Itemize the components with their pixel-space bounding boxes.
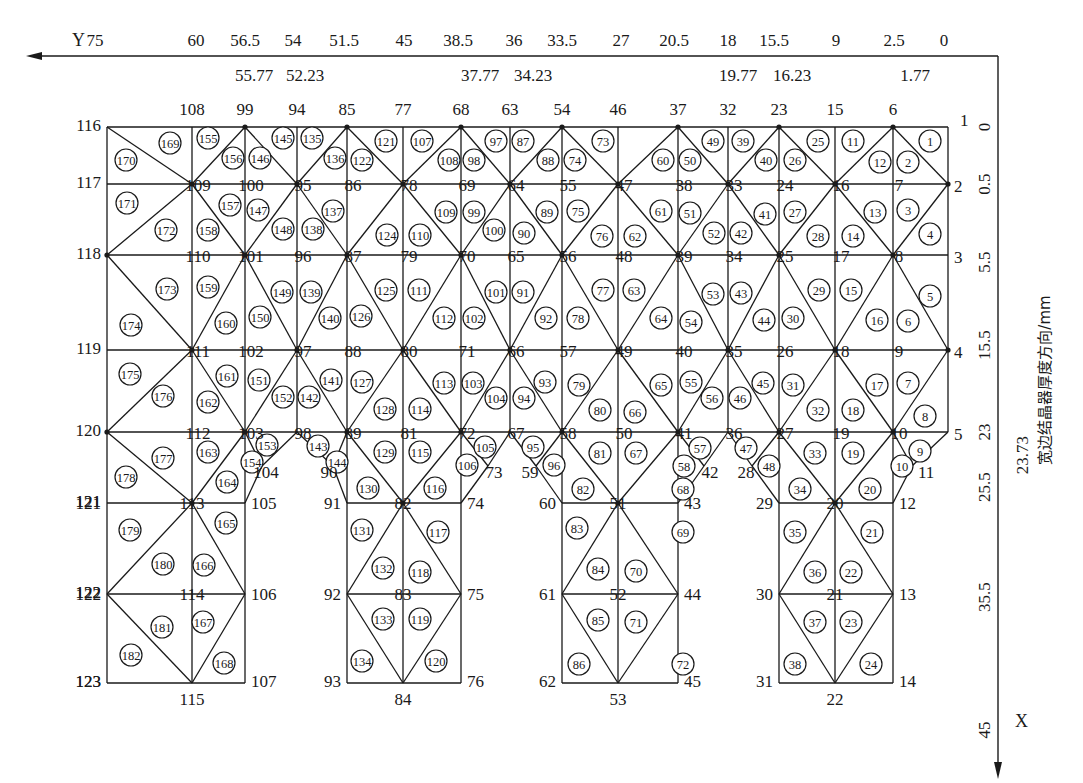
element-number: 55	[685, 376, 698, 390]
node-label: 63	[502, 100, 519, 119]
element-number: 173	[158, 283, 177, 297]
finite-element-mesh-diagram: 1234567891011121314151617181920212223242…	[0, 0, 1083, 783]
element-marker: 127	[351, 371, 373, 393]
y-secondary-tick-label: 52.23	[286, 66, 324, 85]
node-label: 120	[76, 421, 102, 440]
node-label: 112	[186, 424, 211, 443]
mesh-edge	[245, 255, 297, 350]
element-marker: 141	[320, 369, 342, 391]
node-label: 17	[833, 247, 851, 266]
element-marker: 67	[625, 442, 647, 464]
element-number: 36	[809, 566, 822, 580]
mesh-edge	[461, 255, 510, 350]
element-marker: 49	[702, 130, 724, 152]
element-marker: 18	[842, 399, 864, 421]
element-number: 106	[458, 459, 477, 473]
node-dot	[458, 124, 463, 129]
node-label: 37	[670, 100, 688, 119]
x-tick-label: 23.73	[1013, 436, 1032, 474]
element-marker: 16	[866, 309, 888, 331]
element-number: 152	[274, 391, 293, 405]
element-marker: 182	[120, 644, 142, 666]
element-number: 42	[735, 227, 748, 241]
element-number: 13	[869, 206, 882, 220]
node-label: 59	[522, 463, 539, 482]
element-number: 32	[812, 404, 825, 418]
element-number: 109	[437, 206, 456, 220]
node-label: 74	[467, 494, 485, 513]
node-label: 55	[560, 176, 577, 195]
element-marker: 168	[213, 652, 235, 674]
node-label: 33	[726, 176, 743, 195]
element-number: 180	[154, 558, 173, 572]
node-dot	[675, 124, 680, 129]
node-label: 54	[554, 100, 572, 119]
element-marker: 75	[567, 200, 589, 222]
element-number: 100	[485, 224, 504, 238]
y-secondary-tick-label: 34.23	[514, 66, 552, 85]
element-marker: 111	[408, 279, 430, 301]
element-number: 5	[927, 290, 933, 304]
mesh-edge	[297, 255, 347, 350]
node-label: 105	[251, 494, 277, 513]
element-number: 31	[787, 379, 800, 393]
element-marker: 74	[564, 149, 586, 171]
element-number: 2	[905, 156, 911, 170]
element-number: 22	[845, 566, 858, 580]
element-number: 136	[326, 152, 345, 166]
node-label: 16	[833, 176, 850, 195]
node-label: 10	[891, 424, 908, 443]
node-label: 114	[180, 585, 205, 604]
element-marker: 122	[351, 149, 373, 171]
mesh-edge	[403, 503, 461, 594]
element-marker: 159	[197, 276, 219, 298]
element-number: 78	[572, 312, 585, 326]
element-marker: 128	[374, 398, 396, 420]
node-label: 80	[401, 342, 418, 361]
element-marker: 42	[730, 222, 752, 244]
element-marker: 73	[592, 130, 614, 152]
element-marker: 100	[483, 219, 505, 241]
element-number: 119	[411, 613, 429, 627]
node-label: 22	[827, 690, 844, 709]
element-number: 165	[217, 517, 236, 531]
element-number: 50	[684, 154, 697, 168]
element-marker: 163	[197, 441, 219, 463]
y-tick-label: 75	[87, 31, 104, 50]
element-marker: 110	[409, 224, 431, 246]
element-number: 117	[429, 526, 447, 540]
element-number: 118	[411, 566, 429, 580]
node-label: 111	[186, 342, 210, 361]
element-marker: 149	[271, 281, 293, 303]
node-label: 70	[459, 247, 476, 266]
element-marker: 109	[435, 201, 457, 223]
element-marker: 92	[535, 307, 557, 329]
element-number: 34	[794, 483, 807, 497]
node-label: 28	[738, 463, 755, 482]
element-number: 103	[464, 377, 483, 391]
element-marker: 4	[919, 223, 941, 245]
element-number: 41	[759, 208, 772, 222]
y-tick-label: 33.5	[547, 31, 577, 50]
node-dot	[945, 347, 950, 352]
node-label: 84	[395, 690, 413, 709]
node-label: 27	[777, 424, 795, 443]
node-label: 88	[345, 342, 362, 361]
node-label: 52	[610, 585, 627, 604]
element-marker: 38	[784, 653, 806, 675]
x-tick-label: 5.5	[975, 251, 994, 272]
element-marker: 142	[298, 386, 320, 408]
element-number: 156	[224, 152, 243, 166]
node-label: 13	[899, 585, 916, 604]
node-dot	[104, 252, 109, 257]
node-label: 49	[616, 342, 633, 361]
element-number: 52	[708, 227, 721, 241]
element-marker: 112	[433, 307, 455, 329]
element-number: 17	[871, 379, 884, 393]
node-label: 35	[726, 342, 743, 361]
element-number: 134	[353, 655, 373, 669]
element-marker: 124	[376, 224, 398, 246]
node-label: 68	[453, 100, 470, 119]
element-number: 96	[548, 459, 561, 473]
y-tick-label: 9	[832, 31, 841, 50]
